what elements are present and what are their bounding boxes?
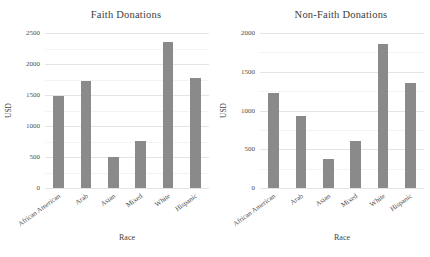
x-tick-label: African American <box>17 192 62 228</box>
y-tick-label: 500 <box>215 145 255 153</box>
minor-gridline <box>45 142 209 143</box>
bar-asian <box>108 157 119 188</box>
major-gridline <box>45 33 209 34</box>
x-tick-label: Arab <box>289 192 305 207</box>
minor-gridline <box>45 173 209 174</box>
minor-gridline <box>45 111 209 112</box>
x-tick-label: Hispanic <box>389 192 414 213</box>
x-tick-label: African American <box>232 192 277 228</box>
major-gridline <box>45 188 209 189</box>
y-tick-label: 1000 <box>215 107 255 115</box>
major-gridline <box>45 157 209 158</box>
major-gridline <box>45 95 209 96</box>
bar-african-american <box>268 93 279 188</box>
x-tick-label: Mixed <box>125 192 144 209</box>
bar-african-american <box>53 96 64 188</box>
bar-mixed <box>135 141 146 188</box>
bar-white <box>378 44 389 188</box>
bar-arab <box>296 116 307 188</box>
bar-arab <box>81 81 92 188</box>
minor-gridline <box>45 80 209 81</box>
major-gridline <box>260 149 424 150</box>
major-gridline <box>45 126 209 127</box>
y-tick-label: 1500 <box>215 68 255 76</box>
chart-title: Non-Faith Donations <box>255 9 427 20</box>
y-tick-label: 1000 <box>0 122 40 130</box>
x-tick-label: Asian <box>314 192 332 208</box>
y-tick-label: 2000 <box>0 60 40 68</box>
x-axis-title: Race <box>260 233 424 242</box>
x-axis-title: Race <box>45 233 209 242</box>
minor-gridline <box>260 52 424 53</box>
major-gridline <box>260 72 424 73</box>
minor-gridline <box>260 91 424 92</box>
plot-area <box>260 33 424 188</box>
chart-title: Faith Donations <box>40 9 212 20</box>
major-gridline <box>260 111 424 112</box>
y-tick-label: 2000 <box>215 29 255 37</box>
major-gridline <box>260 188 424 189</box>
minor-gridline <box>260 130 424 131</box>
y-tick-label: 2500 <box>0 29 40 37</box>
y-axis-title: USD <box>4 103 13 118</box>
bar-white <box>163 42 174 188</box>
x-tick-label: Asian <box>99 192 117 208</box>
faith-donations-chart: Faith Donations USD Race 050010001500200… <box>0 0 215 257</box>
x-tick-label: Hispanic <box>174 192 199 213</box>
bar-hispanic <box>405 83 416 188</box>
minor-gridline <box>260 169 424 170</box>
y-tick-label: 0 <box>0 184 40 192</box>
major-gridline <box>45 64 209 65</box>
major-gridline <box>260 33 424 34</box>
x-tick-label: Mixed <box>340 192 359 209</box>
x-tick-label: Arab <box>74 192 90 207</box>
bar-hispanic <box>190 78 201 188</box>
non-faith-donations-chart: Non-Faith Donations USD Race 05001000150… <box>215 0 430 257</box>
y-axis-title-wrap: USD <box>2 33 14 188</box>
minor-gridline <box>45 49 209 50</box>
y-tick-label: 1500 <box>0 91 40 99</box>
y-tick-label: 500 <box>0 153 40 161</box>
plot-area <box>45 33 209 188</box>
bar-asian <box>323 159 334 188</box>
figure-canvas: Faith Donations USD Race 050010001500200… <box>0 0 430 257</box>
x-tick-label: White <box>368 192 387 209</box>
y-tick-label: 0 <box>215 184 255 192</box>
x-tick-label: White <box>153 192 172 209</box>
bar-mixed <box>350 141 361 188</box>
